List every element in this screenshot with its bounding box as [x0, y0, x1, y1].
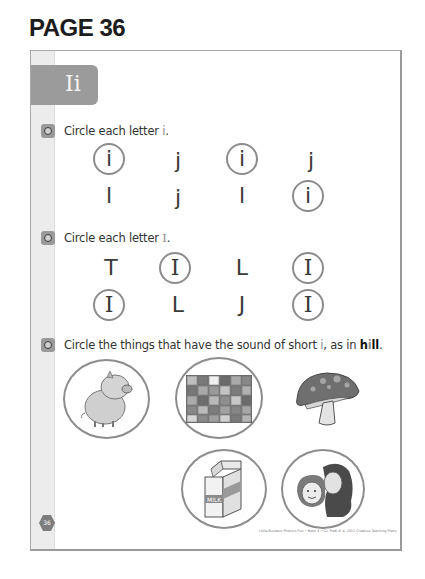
letter-L: L	[162, 289, 194, 321]
letter-i-circled: i	[226, 143, 258, 175]
quilt-icon	[186, 375, 252, 423]
bullet-icon	[41, 124, 55, 138]
letter-l: l	[93, 180, 125, 212]
instruction-1: Circle each letter i.	[64, 124, 169, 138]
picture-quilt-circled	[175, 357, 263, 439]
kiss-icon	[293, 461, 357, 519]
letter-I-circled: I	[292, 289, 324, 321]
picture-kiss-circled	[281, 449, 365, 529]
milk-carton-icon: MILK	[201, 459, 251, 521]
letter-i-circled: i	[292, 180, 324, 212]
letter-j: j	[162, 145, 194, 177]
picture-pig-circled	[63, 359, 150, 439]
page-heading: PAGE 36	[29, 14, 125, 42]
worksheet-frame: Ii Circle each letter i. i j i j l j l i…	[30, 50, 402, 551]
instruction-3: Circle the things that have the sound of…	[64, 338, 382, 352]
letter-I-circled: I	[292, 252, 324, 284]
letter-tab: Ii	[31, 65, 98, 105]
letter-T: T	[95, 252, 127, 284]
letter-l: l	[226, 180, 258, 212]
bullet-icon	[41, 338, 55, 352]
letter-I-circled: I	[159, 252, 191, 284]
picture-milk-circled: MILK	[181, 449, 267, 529]
mushroom-icon	[293, 369, 363, 429]
bullet-icon	[41, 231, 55, 245]
instruction-2: Circle each letter I.	[64, 231, 170, 245]
letter-J: J	[226, 289, 258, 321]
pig-icon	[77, 369, 139, 429]
footer-credit: Little Builders Phonics Fun • Book 4 • G…	[259, 529, 396, 533]
tab-label: Ii	[65, 71, 81, 96]
letter-L: L	[226, 252, 258, 284]
milk-label: MILK	[207, 496, 222, 503]
letter-i-circled: i	[93, 143, 125, 175]
letter-j: j	[295, 145, 327, 177]
letter-j: j	[162, 182, 194, 214]
letter-I-circled: I	[93, 289, 125, 321]
